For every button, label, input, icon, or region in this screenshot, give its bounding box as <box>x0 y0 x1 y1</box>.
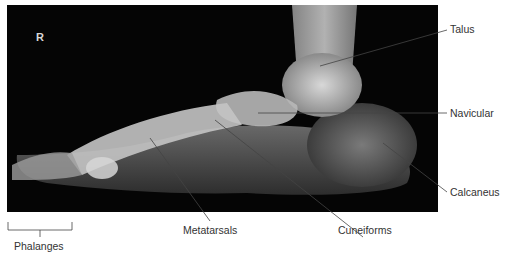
label-cuneiforms: Cuneiforms <box>338 224 392 236</box>
phalanges-bracket <box>8 222 72 230</box>
label-navicular: Navicular <box>450 107 494 119</box>
foot-bones-illustration <box>7 5 438 212</box>
label-calcaneus: Calcaneus <box>450 186 500 198</box>
side-marker: R <box>36 31 44 43</box>
label-talus: Talus <box>450 23 475 35</box>
foot-xray-image: R <box>7 5 438 212</box>
label-metatarsals: Metatarsals <box>183 224 237 236</box>
label-phalanges: Phalanges <box>14 240 64 252</box>
